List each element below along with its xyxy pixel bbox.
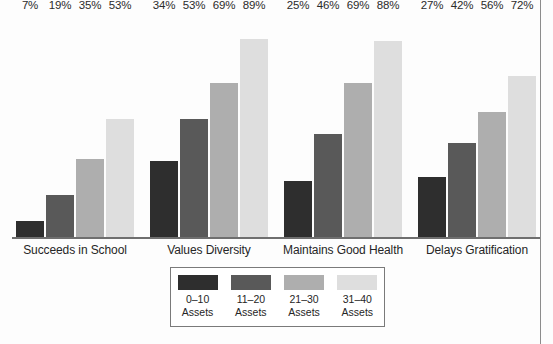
bar [418,177,446,237]
bar-value-label: 19% [49,0,71,11]
legend-swatch [231,275,271,290]
bar [284,181,312,237]
bar-value-label: 69% [213,0,235,11]
category-axis-labels: Succeeds in SchoolValues DiversityMainta… [12,243,540,261]
bar-slot: 69% [210,14,238,237]
category-label: Delays Gratification [388,243,553,257]
bar [344,83,372,237]
legend-item: 0–10Assets [176,275,220,319]
bar-slot: 19% [46,14,74,237]
legend-unit-label: Assets [235,306,267,319]
bar-value-label: 34% [153,0,175,11]
bar-chart-figure: 7%19%35%53%34%53%69%89%25%46%69%88%27%42… [0,0,553,344]
bar-group: 7%19%35%53% [16,14,134,237]
legend-unit-label: Assets [182,306,214,319]
bar-slot: 35% [76,14,104,237]
bar-value-label: 89% [243,0,265,11]
bar-value-label: 69% [347,0,369,11]
bar-slot: 69% [344,14,372,237]
bar-slot: 53% [106,14,134,237]
legend-range-label: 21–30 [290,293,319,306]
legend-item: 11–20Assets [229,275,273,319]
plot-area: 7%19%35%53%34%53%69%89%25%46%69%88%27%42… [12,14,540,237]
bar [448,143,476,237]
bar-value-label: 46% [317,0,339,11]
bar-slot: 89% [240,14,268,237]
legend-range-label: 11–20 [237,293,265,306]
legend-item: 31–40Assets [335,275,379,319]
bar [46,195,74,237]
bar [240,39,268,237]
bar-slot: 72% [508,14,536,237]
bar [106,119,134,237]
bar [150,161,178,237]
bar [76,159,104,237]
bar-group: 25%46%69%88% [284,14,402,237]
bar [478,112,506,237]
bar [314,134,342,237]
chart-legend: 0–10Assets11–20Assets21–30Assets31–40Ass… [170,267,385,327]
bar-value-label: 56% [481,0,503,11]
bar-slot: 27% [418,14,446,237]
legend-swatch [337,275,377,290]
bar-group: 27%42%56%72% [418,14,536,237]
bar-slot: 46% [314,14,342,237]
bar-value-label: 42% [451,0,473,11]
bar-slot: 25% [284,14,312,237]
page-right-rule [540,0,541,344]
bar-value-label: 25% [287,0,309,11]
bar [180,119,208,237]
bar-slot: 56% [478,14,506,237]
bar-value-label: 53% [183,0,205,11]
bar-value-label: 7% [22,0,38,11]
bar-group: 34%53%69%89% [150,14,268,237]
legend-range-label: 31–40 [343,293,372,306]
bar-value-label: 35% [79,0,101,11]
bar-slot: 42% [448,14,476,237]
legend-range-label: 0–10 [186,293,209,306]
bar-value-label: 27% [421,0,443,11]
legend-unit-label: Assets [288,306,320,319]
bar-slot: 34% [150,14,178,237]
bar-slot: 53% [180,14,208,237]
bar [374,41,402,237]
bar-value-label: 53% [109,0,131,11]
bar [210,83,238,237]
bar-slot: 88% [374,14,402,237]
bar-slot: 7% [16,14,44,237]
axis-baseline [12,237,540,239]
bar-value-label: 72% [511,0,533,11]
legend-swatch [178,275,218,290]
legend-unit-label: Assets [342,306,374,319]
bar-value-label: 88% [377,0,399,11]
legend-item: 21–30Assets [282,275,326,319]
legend-swatch [284,275,324,290]
bar [508,76,536,237]
bar [16,221,44,237]
